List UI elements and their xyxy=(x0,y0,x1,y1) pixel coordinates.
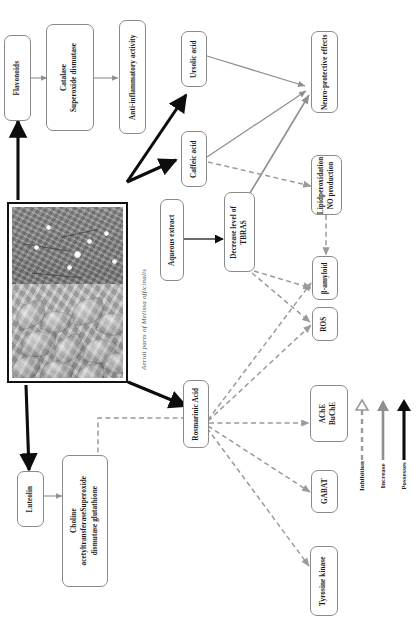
photo-flower xyxy=(112,259,117,264)
node-neuroprotective-effects-label: Neuro-protective effects xyxy=(319,34,329,110)
node-gabat[interactable]: GABAT xyxy=(311,470,338,513)
photo-caption: Aerial parts of Melissa officinalis xyxy=(140,269,148,370)
node-luteolin-label: Luteolin xyxy=(25,486,35,513)
node-ache-buche[interactable]: AChE BuChE xyxy=(310,385,348,442)
legend-item-increase: Increase xyxy=(373,398,393,518)
node-anti-inflammatory-activity-label: Anti-inflammatory activity xyxy=(127,34,137,119)
node-caffeic-acid[interactable]: Caffeic acid xyxy=(181,131,207,187)
edge-photo-to-luteolin xyxy=(26,385,29,470)
node-aqueous-extract[interactable]: Aqueous extract xyxy=(160,199,184,281)
node-caffeic-acid-label: Caffeic acid xyxy=(189,140,199,178)
node-tyrosine-kinase-label: Tyrosine kinase xyxy=(319,556,329,605)
plant-photo xyxy=(12,207,123,378)
node-decrease-level-of-tbras-label: Decrease level of TBRAS xyxy=(229,206,250,259)
edge-rosmarinic-to-choline xyxy=(98,418,186,455)
edge-rosmarinic-to-beta-amyloid xyxy=(208,283,311,420)
node-ros-label: ROS xyxy=(320,316,330,331)
node-flavonoids-label: Flavonoids xyxy=(12,61,22,96)
node-ursolic-acid-label: Ursolic acid xyxy=(189,40,199,78)
photo-flower xyxy=(34,245,39,250)
photo-flower xyxy=(46,225,51,230)
node-decrease-level-of-tbras[interactable]: Decrease level of TBRAS xyxy=(224,192,255,272)
node-anti-inflammatory-activity[interactable]: Anti-inflammatory activity xyxy=(119,20,146,134)
photo-flower xyxy=(104,231,109,236)
node-ursolic-acid[interactable]: Ursolic acid xyxy=(181,31,207,87)
figure-canvas: Flavonoids Catalase Superoxide dismutase… xyxy=(0,0,418,618)
node-aqueous-extract-label: Aqueous extract xyxy=(167,214,177,266)
legend-item-inhibition: Inhibition xyxy=(352,398,372,518)
node-catalase-superoxide-dismutase[interactable]: Catalase Superoxide dismutase xyxy=(46,24,94,131)
node-tyrosine-kinase[interactable]: Tyrosine kinase xyxy=(310,546,338,616)
node-choline-acetyltransferase-label: Choline acetyltransferaseSuperoxide dism… xyxy=(69,476,100,566)
legend-item-possesses: Possesses xyxy=(394,398,414,518)
edge-tbras-to-neuroprotective xyxy=(250,95,309,193)
edge-rosmarinic-to-ros xyxy=(208,325,311,421)
node-flavonoids[interactable]: Flavonoids xyxy=(4,35,31,121)
edge-photo-to-caffeic-acid xyxy=(127,160,176,182)
node-ache-buche-label: AChE BuChE xyxy=(319,402,340,425)
node-ros[interactable]: ROS xyxy=(312,307,338,341)
edge-rosmarinic-to-tyrosine-kinase xyxy=(207,428,309,566)
photo-caption-text: Aerial parts of Melissa officinalis xyxy=(140,269,148,370)
legend: Inhibition Increase Possesses xyxy=(352,398,414,518)
node-lipidperoxidation-no-production[interactable]: Lipidperoxidation NO production xyxy=(311,155,342,215)
node-luteolin[interactable]: Luteolin xyxy=(17,471,44,527)
node-beta-amyloid[interactable]: β-amyloid xyxy=(312,256,338,300)
edge-rosmarinic-to-gabat xyxy=(208,426,310,492)
photo-flower xyxy=(74,251,81,258)
edge-tbras-to-ros xyxy=(252,273,310,322)
node-beta-amyloid-label: β-amyloid xyxy=(320,262,330,294)
edge-photo-to-rosmarinic-acid xyxy=(128,382,186,406)
edge-ursolic-to-neuroprotective xyxy=(207,56,305,86)
photo-flower xyxy=(87,239,92,244)
node-rosmarinic-acid[interactable]: Rosmarinic Acid xyxy=(183,380,209,448)
legend-label-inhibition: Inhibition xyxy=(358,452,366,500)
legend-label-possesses: Possesses xyxy=(400,452,408,500)
node-rosmarinic-acid-label: Rosmarinic Acid xyxy=(191,388,201,441)
edge-tbras-to-beta-amyloid xyxy=(254,271,311,288)
node-catalase-superoxide-dismutase-label: Catalase Superoxide dismutase xyxy=(60,43,81,112)
node-gabat-label: GABAT xyxy=(319,479,329,505)
plant-photo-frame xyxy=(7,202,128,383)
photo-flower xyxy=(67,265,72,270)
edge-caffeic-to-neuroprotective xyxy=(207,91,306,157)
legend-label-increase: Increase xyxy=(379,452,387,500)
node-choline-acetyltransferase[interactable]: Choline acetyltransferaseSuperoxide dism… xyxy=(62,455,108,587)
node-neuroprotective-effects[interactable]: Neuro-protective effects xyxy=(311,31,338,113)
edge-caffeic-to-lipidperoxidation xyxy=(208,162,311,186)
node-lipidperoxidation-no-production-label: Lipidperoxidation NO production xyxy=(316,156,337,214)
